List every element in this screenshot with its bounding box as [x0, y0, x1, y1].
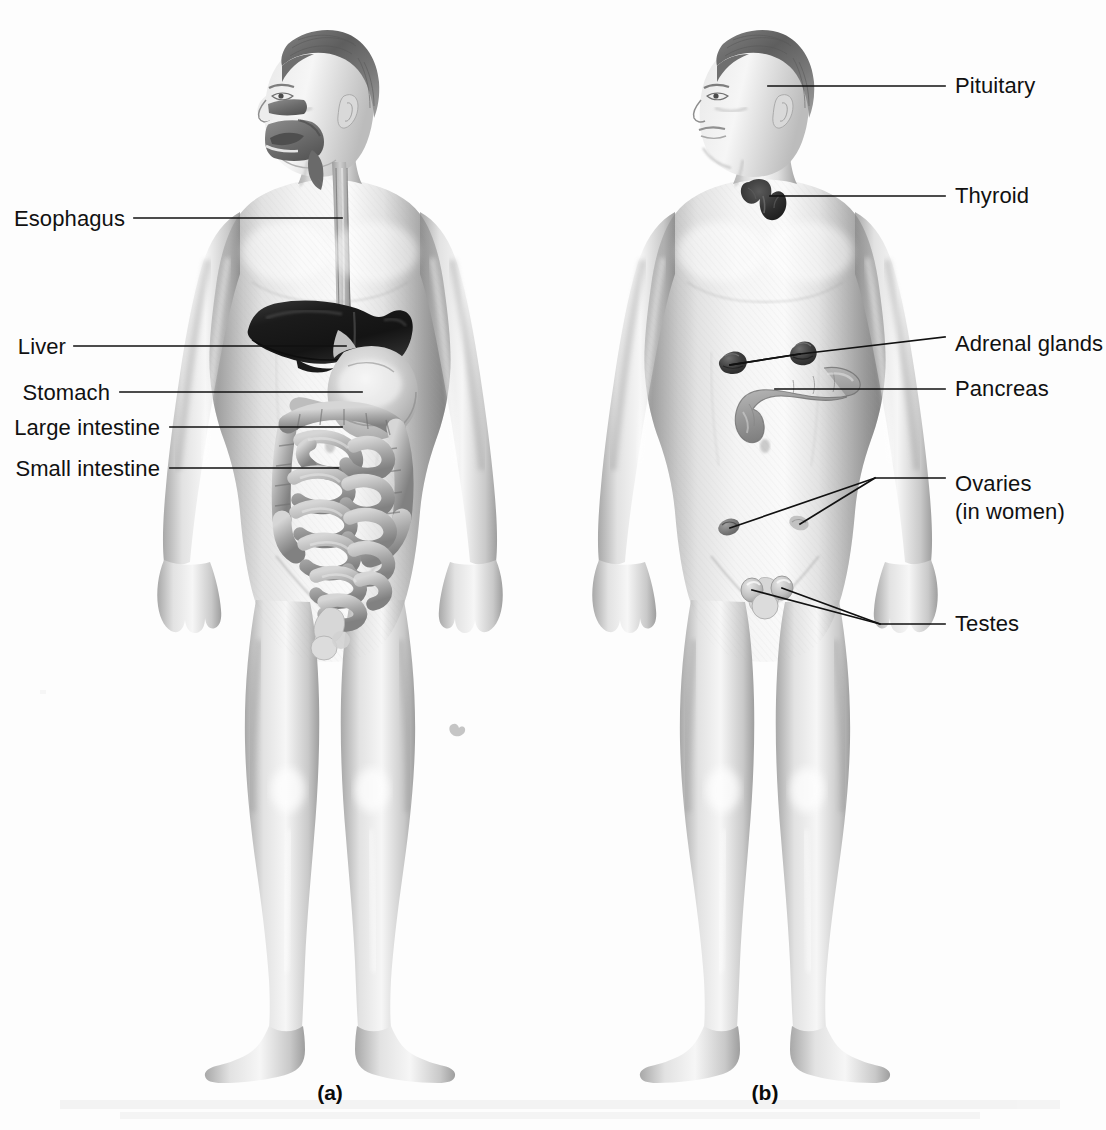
label-liver: Liver — [18, 334, 66, 359]
figure-canvas: Esophagus Liver Stomach Large intestine … — [0, 0, 1106, 1130]
label-pancreas: Pancreas — [955, 376, 1049, 401]
caption-panel-a: (a) — [317, 1081, 343, 1104]
label-ovaries-note: (in women) — [955, 499, 1065, 524]
label-stomach: Stomach — [22, 380, 110, 405]
label-pituitary: Pituitary — [955, 73, 1035, 98]
label-esophagus: Esophagus — [14, 206, 125, 231]
label-small-intestine: Small intestine — [15, 456, 160, 481]
label-thyroid: Thyroid — [955, 183, 1029, 208]
anatomy-figure: Esophagus Liver Stomach Large intestine … — [0, 0, 1106, 1130]
label-large-intestine: Large intestine — [14, 415, 160, 440]
label-adrenal-glands: Adrenal glands — [955, 331, 1103, 356]
label-testes: Testes — [955, 611, 1019, 636]
label-ovaries: Ovaries — [955, 471, 1032, 496]
caption-panel-b: (b) — [752, 1081, 779, 1104]
